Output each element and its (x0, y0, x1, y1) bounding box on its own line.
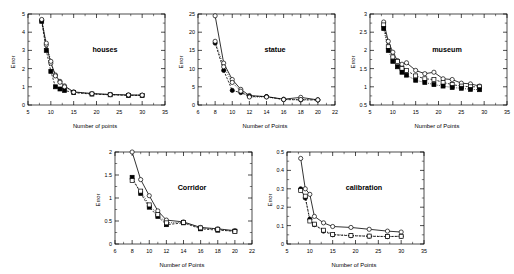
xtick-label: 30 (139, 109, 145, 115)
xtick-label: 35 (421, 248, 427, 254)
xtick-label: 25 (116, 109, 122, 115)
axes-houses: 5101520253035012345 (22, 11, 168, 115)
xtick-label: 15 (330, 248, 336, 254)
data-statue (213, 14, 320, 102)
xtick-label: 14 (264, 109, 270, 115)
xtick-label: 35 (162, 109, 168, 115)
xaxis-label-houses: Number of points (73, 123, 117, 129)
xaxis-label-calibration: Number of Points (332, 262, 377, 268)
ytick-label: 20 (189, 29, 195, 35)
xtick-label: 10 (229, 109, 235, 115)
ytick-label: 10 (189, 66, 195, 72)
xtick-label: 30 (481, 109, 487, 115)
xtick-label: 18 (298, 109, 304, 115)
xtick-label: 12 (163, 248, 169, 254)
plot-museum: 51015202530350.511.522.53 museum Number … (340, 0, 514, 135)
plot-houses: 5101520253035012345 houses Number of poi… (0, 0, 172, 135)
xtick-label: 14 (181, 248, 187, 254)
ytick-label: 1 (364, 84, 367, 90)
ytick-label: 0 (281, 241, 284, 247)
ytick-label: 0.5 (105, 218, 113, 224)
ytick-label: 1.5 (360, 66, 368, 72)
panel-houses: 5101520253035012345 houses Number of poi… (0, 0, 172, 135)
xtick-label: 15 (71, 109, 77, 115)
xtick-label: 8 (214, 109, 217, 115)
data-houses (40, 17, 145, 97)
ytick-label: 1 (109, 195, 112, 201)
series-line (42, 20, 142, 95)
yaxis-label-corridor: Error (95, 193, 101, 206)
ytick-label: 2 (364, 47, 367, 53)
ytick-label: 2.5 (360, 29, 368, 35)
ytick-label: 25 (189, 11, 195, 17)
xtick-label: 6 (197, 109, 200, 115)
panel-calibration: 510152025303500.10.20.30.40.5 calibratio… (255, 136, 429, 274)
xtick-label: 15 (413, 109, 419, 115)
panel-title-houses: houses (92, 45, 117, 54)
yaxis-label-museum: Error (350, 55, 356, 68)
xtick-label: 25 (375, 248, 381, 254)
xtick-label: 22 (332, 109, 338, 115)
panel-title-calibration: calibration (346, 183, 382, 192)
ytick-label: 2 (22, 66, 25, 72)
yaxis-label-houses: Error (10, 55, 16, 68)
xtick-label: 20 (315, 109, 321, 115)
ytick-label: 4 (22, 29, 25, 35)
ytick-label: 0 (109, 241, 112, 247)
xtick-label: 20 (436, 109, 442, 115)
ytick-label: 15 (189, 47, 195, 53)
plot-calibration: 510152025303500.10.20.30.40.5 calibratio… (255, 136, 429, 274)
xtick-label: 35 (504, 109, 510, 115)
ytick-label: 0.5 (277, 149, 285, 155)
ytick-label: 5 (22, 11, 25, 17)
xtick-label: 30 (398, 248, 404, 254)
xtick-label: 10 (390, 109, 396, 115)
xaxis-label-museum: Number of Points (415, 123, 460, 129)
ytick-label: 0.3 (277, 186, 285, 192)
series-line (301, 158, 401, 232)
ytick-label: 3 (364, 11, 367, 17)
panel-title-museum: museum (432, 45, 462, 54)
series-line (42, 21, 142, 95)
panel-title-corridor: Corridor (178, 183, 207, 192)
xtick-label: 10 (146, 248, 152, 254)
ytick-label: 3 (22, 47, 25, 53)
ytick-label: 0.5 (360, 102, 368, 108)
ytick-label: 0.4 (277, 167, 285, 173)
xtick-label: 18 (215, 248, 221, 254)
panel-title-statue: statue (264, 45, 285, 54)
panel-corridor: 681012141618202200.511.52 Corridor Numbe… (85, 136, 257, 274)
xtick-label: 16 (281, 109, 287, 115)
xaxis-label-statue: Number of Points (243, 123, 288, 129)
data-calibration (299, 156, 404, 238)
yaxis-label-statue: Error (178, 55, 184, 68)
series-line (42, 19, 142, 95)
axes-calibration: 510152025303500.10.20.30.40.5 (277, 149, 428, 254)
yaxis-label-calibration: Error (267, 193, 273, 206)
ytick-label: 0.2 (277, 204, 285, 210)
xtick-label: 5 (27, 109, 30, 115)
xtick-label: 20 (353, 248, 359, 254)
xtick-label: 20 (94, 109, 100, 115)
data-museum (382, 20, 482, 92)
ytick-label: 2 (109, 149, 112, 155)
xtick-label: 12 (246, 109, 252, 115)
xtick-label: 10 (307, 248, 313, 254)
xtick-label: 16 (198, 248, 204, 254)
figure-grid: 5101520253035012345 houses Number of poi… (0, 0, 514, 274)
ytick-label: 0 (192, 102, 195, 108)
ytick-label: 5 (192, 84, 195, 90)
ytick-label: 1.5 (105, 172, 113, 178)
ytick-label: 0 (22, 102, 25, 108)
xtick-label: 5 (369, 109, 372, 115)
xtick-label: 6 (114, 248, 117, 254)
ytick-label: 1 (22, 84, 25, 90)
xaxis-label-corridor: Number of Points (160, 262, 205, 268)
xtick-label: 8 (131, 248, 134, 254)
panel-museum: 51015202530350.511.522.53 museum Number … (340, 0, 514, 135)
plot-corridor: 681012141618202200.511.52 Corridor Numbe… (85, 136, 257, 274)
panel-statue: 68101214161820220510152025 statue Number… (170, 0, 342, 135)
ytick-label: 0.1 (277, 223, 285, 229)
xtick-label: 10 (48, 109, 54, 115)
xtick-label: 5 (286, 248, 289, 254)
